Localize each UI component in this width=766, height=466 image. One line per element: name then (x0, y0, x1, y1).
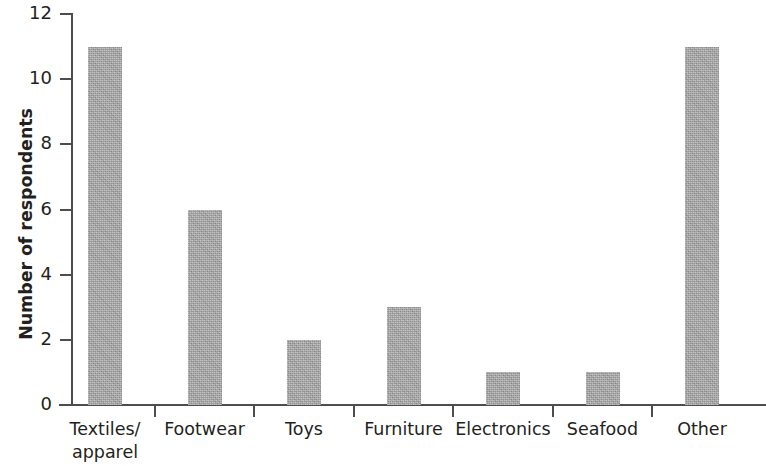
y-axis-tick (60, 274, 71, 276)
y-axis-tick (60, 339, 71, 341)
x-axis-tick (651, 406, 653, 417)
x-axis-tick (552, 406, 554, 417)
y-axis-tick-label: 10 (8, 69, 52, 87)
bar (88, 47, 122, 405)
bar (287, 340, 321, 405)
x-axis-tick (154, 406, 156, 417)
y-axis-tick-label: 12 (8, 4, 52, 22)
x-axis-tick (452, 406, 454, 417)
bar-chart-figure: Number of respondents 024681012 Textiles… (0, 0, 766, 466)
y-axis-tick-label: 0 (8, 395, 52, 413)
x-axis-tick-label: Other (647, 418, 757, 441)
x-axis-tick (253, 406, 255, 417)
bar (387, 307, 421, 405)
x-axis-tick-label: Electronics (448, 418, 558, 441)
x-axis-tick-label: Seafood (548, 418, 658, 441)
y-axis-tick (60, 78, 71, 80)
x-axis-tick-label: Furniture (349, 418, 459, 441)
y-axis-tick (60, 404, 71, 406)
bar (486, 372, 520, 405)
y-axis-tick-label: 6 (8, 200, 52, 218)
x-axis-tick (353, 406, 355, 417)
y-axis-tick-label: 4 (8, 265, 52, 283)
y-axis-tick-label: 8 (8, 134, 52, 152)
x-axis-tick-label: Textiles/ apparel (50, 418, 160, 464)
y-axis-tick (60, 13, 71, 15)
bar (685, 47, 719, 405)
y-axis-title: Number of respondents (16, 94, 36, 354)
y-axis-tick (60, 209, 71, 211)
bar (188, 210, 222, 406)
y-axis-tick (60, 143, 71, 145)
bar (586, 372, 620, 405)
y-axis-tick-label: 2 (8, 330, 52, 348)
x-axis-tick-label: Toys (249, 418, 359, 441)
x-axis-tick-label: Footwear (150, 418, 260, 441)
y-axis-line (71, 13, 73, 406)
